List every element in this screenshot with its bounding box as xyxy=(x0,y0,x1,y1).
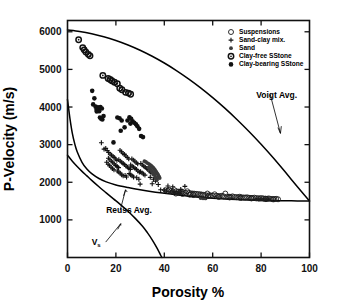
y-axis-title: P-Velocity (m/s) xyxy=(1,87,17,191)
annotation-reuss-avg: Reuss Avg. xyxy=(106,205,152,215)
annotation-voigt-avg: Voigt Avg. xyxy=(256,90,297,100)
point-clay-bearing-sstone xyxy=(101,114,106,119)
point-sand xyxy=(149,168,153,172)
point-clay-free-sstone-center xyxy=(78,39,80,41)
point-clay-bearing-sstone xyxy=(122,125,127,130)
legend-label-sand-clay-mix: Sand-clay mix. xyxy=(239,36,285,44)
x-tick-label: 40 xyxy=(159,263,171,274)
y-tick-label: 5000 xyxy=(39,64,62,75)
point-clay-bearing-sstone xyxy=(119,118,124,123)
point-clay-bearing-sstone xyxy=(111,140,116,145)
legend-label-clay-bearing-sstone: Clay-bearing SStone xyxy=(239,60,304,68)
legend-label-sand: Sand xyxy=(239,44,255,51)
legend-marker-clay-free-sstone-center xyxy=(230,55,232,57)
legend-marker-clay-bearing-sstone xyxy=(229,62,234,67)
point-clay-free-sstone-center xyxy=(121,89,123,91)
y-tick-label: 3000 xyxy=(39,139,62,150)
chart-canvas: Porosity % P-Velocity (m/s) 020406080100… xyxy=(0,0,350,303)
point-clay-bearing-sstone xyxy=(137,127,142,132)
x-tick-label: 20 xyxy=(110,263,122,274)
point-clay-free-sstone-center xyxy=(130,93,132,95)
point-clay-free-sstone-center xyxy=(89,55,91,57)
point-clay-bearing-sstone xyxy=(90,89,95,94)
point-clay-bearing-sstone xyxy=(118,128,123,133)
x-tick-label: 80 xyxy=(256,263,268,274)
x-axis-title: Porosity % xyxy=(152,284,225,300)
x-tick-label: 60 xyxy=(207,263,219,274)
y-tick-label: 1000 xyxy=(39,214,62,225)
x-tick-label: 100 xyxy=(301,263,318,274)
legend-label-suspensions: Suspensions xyxy=(239,28,280,36)
point-sand xyxy=(155,178,159,182)
y-tick-label: 2000 xyxy=(39,177,62,188)
point-clay-bearing-sstone xyxy=(100,106,105,111)
point-clay-bearing-sstone xyxy=(92,96,97,101)
point-clay-free-sstone-center xyxy=(117,83,119,85)
velocity-porosity-chart: Porosity % P-Velocity (m/s) 020406080100… xyxy=(0,0,350,303)
legend-label-clay-free-sstone: Clay-free SStone xyxy=(239,52,292,60)
y-tick-label: 6000 xyxy=(39,26,62,37)
point-clay-free-sstone-center xyxy=(102,75,104,77)
point-clay-bearing-sstone xyxy=(94,109,99,114)
point-clay-bearing-sstone xyxy=(141,135,146,140)
point-clay-bearing-sstone xyxy=(128,121,133,126)
legend-marker-sand xyxy=(229,46,233,50)
y-tick-label: 4000 xyxy=(39,102,62,113)
x-tick-label: 0 xyxy=(65,263,71,274)
